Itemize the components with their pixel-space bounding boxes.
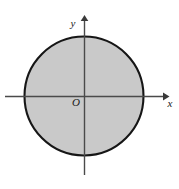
origin-label: O: [72, 96, 80, 108]
x-axis-label: x: [167, 97, 173, 109]
figure-container: y x O: [0, 0, 179, 189]
y-axis-label: y: [70, 17, 76, 29]
y-axis-arrow-icon: [81, 15, 89, 21]
coordinate-plane-figure: y x O: [0, 0, 179, 189]
